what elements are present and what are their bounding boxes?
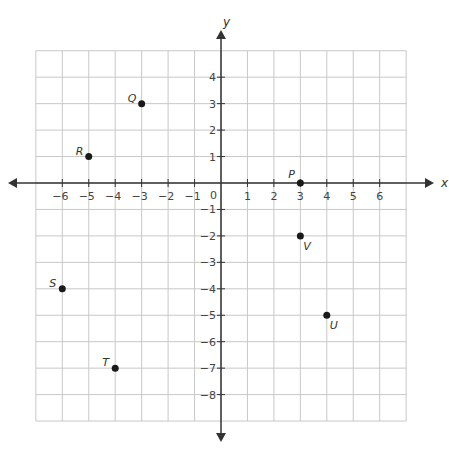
x-tick-label: 6 (376, 190, 383, 203)
y-tick-label: 3 (209, 98, 216, 111)
y-axis-down-arrow-icon (216, 433, 226, 442)
data-point-q (138, 100, 145, 107)
x-tick-label: 3 (297, 190, 304, 203)
data-point-u (323, 312, 330, 319)
x-tick-label: −4 (105, 190, 121, 203)
point-label-r: R (76, 145, 84, 158)
x-tick-label: −2 (158, 190, 174, 203)
x-tick-label: 2 (270, 190, 277, 203)
axis-ticks: 0−6−5−4−3−2−11234564321−1−2−3−4−5−6−7−8 (52, 71, 383, 401)
x-tick-label: 4 (323, 190, 330, 203)
y-tick-label: −8 (200, 389, 216, 402)
y-tick-label: −4 (200, 283, 216, 296)
x-tick-label: −3 (132, 190, 148, 203)
y-tick-label: −1 (200, 203, 216, 216)
data-point-s (59, 285, 66, 292)
axes: xy (8, 15, 449, 442)
origin-label: 0 (210, 189, 217, 202)
y-tick-label: −6 (200, 336, 216, 349)
point-label-u: U (330, 319, 338, 332)
y-tick-label: 1 (209, 151, 216, 164)
x-axis-label: x (440, 176, 449, 190)
y-tick-label: 4 (209, 71, 216, 84)
data-point-t (112, 365, 119, 372)
point-label-p: P (288, 168, 295, 181)
y-axis-label: y (222, 15, 231, 29)
point-label-q: Q (128, 92, 137, 105)
y-tick-label: −7 (200, 362, 216, 375)
x-tick-label: 1 (244, 190, 251, 203)
coordinate-plane: xy 0−6−5−4−3−2−11234564321−1−2−3−4−5−6−7… (0, 0, 449, 456)
x-tick-label: −1 (184, 190, 200, 203)
y-axis-up-arrow-icon (216, 30, 226, 39)
y-tick-label: 2 (209, 124, 216, 137)
y-tick-label: −3 (200, 256, 216, 269)
y-tick-label: −2 (200, 230, 216, 243)
data-point-r (85, 153, 92, 160)
x-tick-label: 5 (350, 190, 357, 203)
x-tick-label: −5 (79, 190, 95, 203)
data-points: PQRSTUV (49, 92, 338, 372)
point-label-v: V (303, 240, 312, 253)
point-label-t: T (102, 356, 110, 369)
x-axis-left-arrow-icon (8, 178, 17, 188)
y-tick-label: −5 (200, 309, 216, 322)
point-label-s: S (49, 277, 56, 290)
data-point-v (297, 232, 304, 239)
x-axis-right-arrow-icon (425, 178, 434, 188)
data-point-p (297, 180, 304, 187)
x-tick-label: −6 (52, 190, 68, 203)
